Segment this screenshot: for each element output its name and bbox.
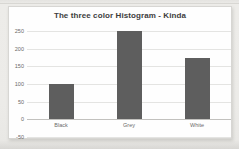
y-tick-label: 250 [15,28,24,34]
y-tick-label: 0 [21,116,24,122]
y-tick-label: 50 [18,99,24,105]
x-category-label: White [167,122,227,128]
y-tick-label: 200 [15,46,24,52]
y-tick-label: -50 [16,134,24,140]
bar-black [49,84,74,119]
x-category-label: Grey [99,122,159,128]
y-tick-label: 150 [15,63,24,69]
y-axis: 250200150100500-50 [9,31,25,137]
gridline [27,137,231,138]
x-axis-line [27,119,231,120]
chart-title: The three color Histogram - Kinda [9,11,231,20]
plot-area: BlackGreyWhite [27,31,231,137]
bar-grey [117,31,142,119]
bar-white [185,58,210,120]
chart-card: The three color Histogram - Kinda 250200… [8,6,232,139]
x-category-label: Black [31,122,91,128]
y-tick-label: 100 [15,81,24,87]
